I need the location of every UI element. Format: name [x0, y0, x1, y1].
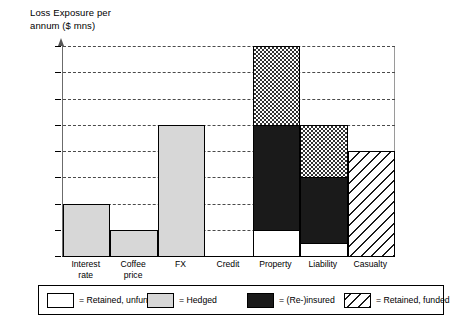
bar-segment[interactable] — [253, 46, 300, 125]
legend-item[interactable]: = Hedged — [147, 293, 217, 308]
bar-segment[interactable] — [300, 243, 347, 256]
bar-segment[interactable] — [110, 230, 157, 256]
bar-column[interactable] — [63, 46, 110, 256]
y-axis-tick — [55, 230, 61, 231]
x-axis-category-label: FX — [157, 259, 204, 280]
legend-label: = Retained, funded — [376, 295, 450, 305]
bar-segment[interactable] — [348, 151, 395, 256]
y-axis-tick — [55, 177, 61, 178]
x-axis-category-label: Interest rate — [62, 259, 109, 280]
bar-column[interactable] — [300, 46, 347, 256]
y-axis-tick — [55, 125, 61, 126]
x-axis-category-label: Liability — [299, 259, 346, 280]
legend-swatch-insured — [247, 293, 274, 308]
legend-label: = Hedged — [179, 295, 217, 305]
bar-column[interactable] — [348, 46, 395, 256]
x-axis-category-label: Credit — [204, 259, 251, 280]
bar-column[interactable] — [110, 46, 157, 256]
y-axis-tick — [55, 72, 61, 73]
legend-label: = (Re-)insured — [279, 295, 335, 305]
legend-item[interactable]: = Retained, funded — [344, 293, 450, 308]
bar-segment[interactable] — [253, 125, 300, 230]
plot-area: 8007006005004003002001000 — [62, 46, 395, 257]
bar-series-group — [63, 46, 395, 256]
chart-legend: = Retained, unfunded= Hedged= (Re-)insur… — [38, 285, 444, 315]
legend-item[interactable]: = (Re-)insured — [247, 293, 335, 308]
legend-swatch-hedged — [147, 293, 174, 308]
y-axis-arrow-icon — [58, 38, 64, 46]
y-axis-tick — [55, 46, 61, 47]
bar-column[interactable] — [205, 46, 252, 256]
x-axis-category-labels: Interest rateCoffee priceFXCreditPropert… — [62, 259, 394, 280]
y-axis-tick — [55, 204, 61, 205]
y-axis-tick — [55, 151, 61, 152]
y-axis-title: Loss Exposure per annum ($ mns) — [30, 7, 111, 32]
x-axis-category-label: Property — [252, 259, 299, 280]
bar-segment[interactable] — [63, 204, 110, 257]
x-axis-category-label: Coffee price — [109, 259, 156, 280]
bar-segment[interactable] — [253, 230, 300, 256]
legend-swatch-funded — [344, 293, 371, 308]
bar-segment[interactable] — [158, 125, 205, 256]
bar-segment[interactable] — [300, 177, 347, 243]
y-axis-tick — [55, 99, 61, 100]
bar-column[interactable] — [253, 46, 300, 256]
legend-item[interactable]: = Retained, unfunded — [47, 293, 162, 308]
bar-column[interactable] — [158, 46, 205, 256]
bar-segment[interactable] — [300, 125, 347, 178]
legend-swatch-unfunded — [47, 293, 74, 308]
y-axis-tick — [55, 256, 61, 257]
x-axis-category-label: Casualty — [347, 259, 394, 280]
chart-root: Loss Exposure per annum ($ mns) 80070060… — [0, 0, 451, 319]
